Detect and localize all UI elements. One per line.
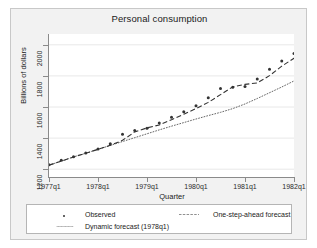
y-tick-1200: [43, 169, 48, 170]
y-axis-line: [48, 34, 49, 178]
gridlines: [49, 45, 294, 169]
data-point: [280, 59, 283, 62]
data-point: [121, 133, 124, 136]
y-tick-label-2000: 2000: [36, 46, 43, 72]
x-tick-label-1982q1: 1982q1: [274, 183, 314, 190]
data-point: [268, 68, 271, 71]
legend-dot-dynamic-icon: [49, 226, 81, 227]
x-tick-label-1980q1: 1980q1: [176, 183, 216, 190]
data-point: [84, 151, 87, 154]
data-point: [256, 78, 259, 81]
data-point: [244, 85, 247, 88]
x-axis-line: [49, 177, 295, 178]
x-tick-label-1977q1: 1977q1: [29, 183, 69, 190]
y-tick-1600: [43, 107, 48, 108]
x-axis-title: Quarter: [49, 192, 295, 201]
data-point: [60, 159, 63, 162]
data-point: [231, 86, 234, 89]
data-point: [170, 116, 173, 119]
x-tick-1980q1: [196, 178, 197, 182]
x-tick-label-1979q1: 1979q1: [127, 183, 167, 190]
data-point: [97, 148, 100, 151]
data-point: [219, 87, 222, 90]
legend-label-one-step-ahead-forecast: One-step-ahead forecast: [213, 211, 290, 218]
x-tick-1981q1: [245, 178, 246, 182]
graph-frame: Personal consumption 1200 1400 16: [10, 8, 307, 240]
x-tick-1977q1: [49, 178, 50, 182]
data-point: [72, 155, 75, 158]
series-one-step-ahead-forecast: [49, 51, 294, 165]
y-tick-1400: [43, 138, 48, 139]
plot-canvas: [49, 34, 294, 177]
legend-dash-one-step-icon: [169, 214, 209, 215]
y-tick-label-1600: 1600: [36, 108, 43, 134]
data-point: [195, 104, 198, 107]
x-tick-1979q1: [147, 178, 148, 182]
y-tick-1800: [43, 76, 48, 77]
chart-title: Personal consumption: [11, 13, 308, 24]
legend-marker-observed-icon: [63, 215, 65, 217]
y-axis-title: Billions of dollars: [19, 26, 28, 126]
plot-area: [49, 34, 294, 177]
chart-legend: Observed One-step-ahead forecast Dynamic…: [26, 204, 292, 234]
x-tick-label-1981q1: 1981q1: [225, 183, 265, 190]
data-point: [293, 52, 295, 55]
data-point: [207, 96, 210, 99]
series-observed: [49, 46, 294, 166]
data-point: [109, 142, 112, 145]
data-point: [133, 129, 136, 132]
y-tick-label-1800: 1800: [36, 77, 43, 103]
legend-label-observed: Observed: [85, 211, 115, 218]
x-tick-1978q1: [98, 178, 99, 182]
y-tick-2000: [43, 45, 48, 46]
x-tick-label-1978q1: 1978q1: [78, 183, 118, 190]
data-point: [182, 110, 185, 113]
data-point: [158, 122, 161, 125]
legend-label-dynamic-forecast: Dynamic forecast (1978q1): [85, 223, 169, 230]
data-point: [49, 163, 51, 166]
x-tick-1982q1: [294, 178, 295, 182]
y-tick-label-1400: 1400: [36, 139, 43, 165]
data-point: [146, 127, 149, 130]
